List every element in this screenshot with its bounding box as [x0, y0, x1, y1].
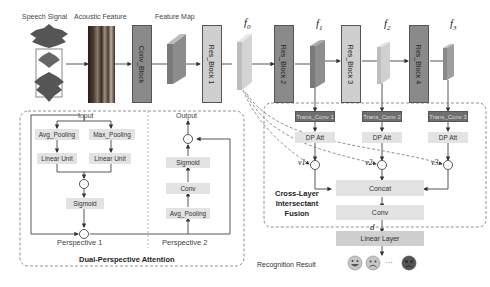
res-block-1-label: Res_Block 1: [209, 44, 216, 83]
res-block-2-label: Res_Block 2: [281, 44, 288, 83]
p2-conv: Conv: [166, 183, 210, 194]
ellipsis: ···: [385, 258, 393, 267]
f2-feature-slab: [376, 40, 392, 86]
res-block-3: Res_Block 3: [341, 25, 361, 103]
f3-feature-slab: [442, 42, 456, 82]
sad-face-icon: [365, 255, 381, 271]
concat-box: Concat: [336, 180, 424, 196]
p1-sigmoid: Sigmoid: [66, 198, 104, 209]
perspective-2-label: Perspective 2: [162, 238, 207, 247]
res-block-4: Res_Block 4: [409, 25, 429, 103]
fusion-title-line-3: Fusion: [275, 209, 319, 219]
fusion-conv-box: Conv: [336, 205, 424, 220]
p1-add-operator: ·: [79, 179, 89, 189]
fusion-multiply-1: ·: [310, 160, 320, 170]
res-block-3-label: Res_Block 3: [348, 44, 355, 83]
p1-linear-unit-2: Linear Unit: [89, 153, 131, 164]
res-block-4-label: Res_Block 4: [416, 44, 423, 83]
trans-conv-1: Trans_Conv 1: [295, 111, 335, 122]
fusion-title-line-1: Cross-Layer: [275, 189, 319, 199]
dpa-input-label: Input: [78, 112, 94, 119]
p1-linear-unit-1: Linear Unit: [37, 153, 77, 164]
v2-label: v2: [365, 158, 373, 167]
trans-conv-3: Trans_Conv 3: [428, 111, 468, 122]
angry-face-icon: [401, 255, 417, 271]
p2-multiply-operator: ·: [183, 134, 193, 144]
res-block-2: Res_Block 2: [274, 25, 294, 103]
feature-map-label: Feature Map: [155, 13, 195, 20]
p1-max-pooling: Max_Pooling: [89, 129, 135, 140]
dpa-output-label: Output: [176, 112, 197, 119]
acoustic-feature-spectrogram: [88, 26, 115, 103]
f0-label: f0: [244, 16, 251, 31]
linear-layer-box: Linear Layer: [336, 231, 424, 246]
cross-layer-fusion-title: Cross-Layer Intersectant Fusion: [275, 189, 319, 219]
v1-label: v1: [298, 158, 306, 167]
acoustic-feature-label: Acoustic Feature: [74, 13, 127, 20]
f1-label: f1: [316, 17, 323, 32]
f1-feature-slab: [309, 38, 327, 90]
dp-att-3: DP Att: [428, 132, 468, 143]
dual-perspective-attention-title: Dual-Perspective Attention: [79, 255, 175, 264]
speech-signal-label: Speech Signal: [22, 13, 67, 20]
dp-att-1: DP Att: [295, 132, 335, 143]
perspective-1-label: Perspective 1: [57, 238, 102, 247]
dp-att-2: DP Att: [362, 132, 402, 143]
f3-label: f3: [450, 17, 457, 32]
v3-label: v3: [431, 158, 439, 167]
trans-conv-2: Trans_Conv 2: [362, 111, 402, 122]
fusion-multiply-3: ·: [443, 160, 453, 170]
p1-avg-pooling: Avg_Pooling: [35, 129, 79, 140]
p2-avg-pooling: Avg_Pooling: [166, 208, 210, 219]
feature-map-slab: [166, 32, 188, 84]
fusion-multiply-2: ·: [377, 160, 387, 170]
happy-face-icon: [347, 255, 363, 271]
recognition-result-label: Recognition Result: [257, 261, 316, 268]
conv-block-label: Conv_Block: [139, 45, 146, 82]
fusion-title-line-2: Intersectant: [275, 199, 319, 209]
conv-block: Conv_Block: [132, 25, 152, 103]
speech-waveform-icon: [28, 22, 70, 104]
p2-sigmoid: Sigmoid: [166, 157, 210, 168]
res-block-1: Res_Block 1: [202, 25, 222, 103]
f0-feature-slab: [236, 32, 254, 92]
f2-label: f2: [384, 17, 391, 32]
